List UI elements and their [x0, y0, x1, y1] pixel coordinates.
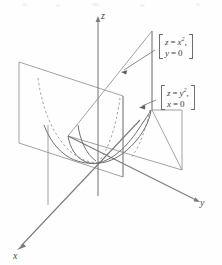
annotation-trace-yz-text: z=y2, x=0 [167, 85, 189, 110]
equation-line-1: z=y2, [167, 85, 189, 99]
left-brace-icon [161, 85, 165, 110]
equation-line-1: z=x2, [165, 34, 187, 48]
left-brace-icon [159, 34, 163, 59]
equation-line-2: x=0 [167, 99, 189, 110]
scan-speckle [22, 3, 27, 6]
scan-speckle [56, 4, 60, 7]
right-brace-icon [191, 85, 195, 110]
figure-paraboloid-traces: z y x z=x2, y=0 z=y2, x=0 [0, 0, 222, 265]
scan-speckle [140, 4, 145, 7]
callout-arrow-xz [121, 50, 155, 74]
scan-speckle [196, 3, 200, 6]
annotation-trace-yz: z=y2, x=0 [161, 85, 195, 110]
axis-y [68, 136, 200, 202]
right-brace-icon [189, 34, 193, 59]
axis-label-x: x [13, 251, 17, 261]
scan-speckle [92, 3, 99, 6]
annotation-trace-xz-text: z=x2, y=0 [165, 34, 187, 59]
equation-line-2: y=0 [165, 48, 187, 59]
axis-label-y: y [200, 198, 204, 208]
callout-arrow-yz [139, 100, 156, 110]
annotation-trace-xz: z=x2, y=0 [159, 34, 193, 59]
axis-label-z: z [101, 11, 105, 21]
hidden-parabola-traces [38, 78, 150, 163]
